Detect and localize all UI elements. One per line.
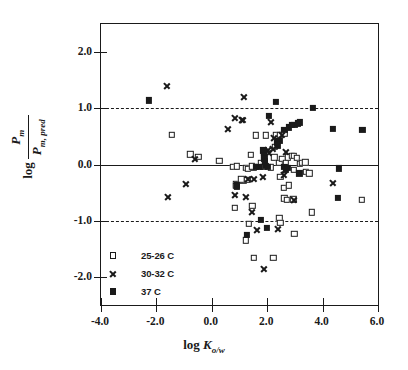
legend: 25-26 C30-32 C37 C xyxy=(107,250,174,297)
data-point xyxy=(164,193,172,201)
data-point xyxy=(282,148,290,156)
y-tick-label--2.0: -2.0 xyxy=(52,270,92,282)
y-tick-label-0.0: 0.0 xyxy=(52,158,92,170)
y-tick-outer--2.0 xyxy=(94,277,101,278)
open-square-icon xyxy=(110,252,116,258)
data-point xyxy=(290,196,298,204)
x-tick-label--2.0: -2.0 xyxy=(146,315,164,327)
y-tick-1.0 xyxy=(101,108,107,109)
y-tick-outer--1.0 xyxy=(94,221,101,222)
x-axis-title: log Ko/w xyxy=(0,337,408,355)
data-point xyxy=(266,113,272,119)
data-point xyxy=(244,175,252,183)
scatter-plot-figure: log Pm Pm, pred log Ko/w 25-26 C30-32 C3… xyxy=(0,0,408,370)
y-tick-2.0 xyxy=(101,52,107,53)
data-point xyxy=(146,97,152,103)
data-point xyxy=(163,82,171,90)
data-point xyxy=(310,105,316,111)
y-tick-outer-2.0 xyxy=(94,52,101,53)
data-point xyxy=(251,255,257,261)
data-point xyxy=(242,193,250,201)
legend-label: 25-26 C xyxy=(141,250,174,261)
data-point xyxy=(234,184,240,190)
data-point xyxy=(272,98,278,104)
x-tick--2.0 xyxy=(156,298,157,305)
y-tick-label--1.0: -1.0 xyxy=(52,214,92,226)
x-tick-label-2.0: 2.0 xyxy=(259,315,273,327)
data-point xyxy=(263,132,269,138)
data-point xyxy=(224,125,232,133)
x-tick--4.0 xyxy=(101,298,102,305)
reference-line-1 xyxy=(101,108,378,109)
data-point xyxy=(286,182,292,188)
reference-line--1 xyxy=(101,221,378,222)
legend-item: 25-26 C xyxy=(107,250,174,261)
data-point xyxy=(247,152,253,158)
data-point xyxy=(231,191,239,199)
legend-item: 30-32 C xyxy=(107,268,174,279)
data-point xyxy=(359,127,365,133)
x-tick-4.0 xyxy=(323,298,324,305)
legend-marker-open-square-icon xyxy=(107,251,119,260)
data-point xyxy=(275,142,281,148)
data-point xyxy=(260,265,268,273)
x-tick-label-6.0: 6.0 xyxy=(370,315,384,327)
data-point xyxy=(297,119,303,125)
data-point xyxy=(291,230,297,236)
y-tick-label-1.0: 1.0 xyxy=(52,101,92,113)
x-tick-6.0 xyxy=(378,298,379,305)
y-tick-outer-0.0 xyxy=(94,165,101,166)
data-point xyxy=(257,217,263,223)
data-point xyxy=(335,195,341,201)
data-point xyxy=(306,170,312,176)
cross-icon xyxy=(109,270,117,278)
y-tick--1.0 xyxy=(101,221,107,222)
data-point xyxy=(239,116,247,124)
y-axis-denominator: Pm, pred xyxy=(29,115,47,159)
data-point xyxy=(231,205,237,211)
data-point xyxy=(259,173,267,181)
data-point xyxy=(168,132,174,138)
x-tick-outer-2.0 xyxy=(267,305,268,312)
data-point xyxy=(253,226,261,234)
data-point xyxy=(264,225,270,231)
data-point xyxy=(248,208,256,216)
x-tick-2.0 xyxy=(267,298,268,305)
data-point xyxy=(336,165,342,171)
x-tick-outer-4.0 xyxy=(323,305,324,312)
legend-label: 37 C xyxy=(141,286,161,297)
x-tick-outer--2.0 xyxy=(156,305,157,312)
data-point xyxy=(244,232,250,238)
y-tick-0.0 xyxy=(101,165,107,166)
data-point xyxy=(302,159,308,165)
y-tick-label-2.0: 2.0 xyxy=(52,45,92,57)
data-point xyxy=(296,170,302,176)
x-tick-label--4.0: -4.0 xyxy=(91,315,109,327)
x-tick-outer-0.0 xyxy=(212,305,213,312)
legend-item: 37 C xyxy=(107,286,174,297)
y-axis-fraction: Pm Pm, pred xyxy=(9,115,47,159)
legend-marker-cross-icon xyxy=(107,269,119,278)
data-point xyxy=(274,225,282,233)
x-tick-label-4.0: 4.0 xyxy=(314,315,328,327)
data-point xyxy=(191,155,199,163)
x-axis-subscript: o/w xyxy=(212,345,225,355)
legend-marker-filled-square-icon xyxy=(107,287,119,296)
x-axis-symbol: K xyxy=(203,337,212,352)
x-tick-outer-6.0 xyxy=(378,305,379,312)
x-tick-outer--4.0 xyxy=(101,305,102,312)
filled-square-icon xyxy=(110,288,116,294)
data-point xyxy=(252,132,258,138)
y-tick-outer-1.0 xyxy=(94,108,101,109)
data-point xyxy=(329,179,337,187)
data-point xyxy=(308,209,314,215)
x-axis-log-prefix: log xyxy=(183,337,200,352)
data-point xyxy=(329,126,335,132)
data-point xyxy=(252,164,258,170)
data-point xyxy=(359,197,365,203)
data-point xyxy=(283,197,289,203)
data-point xyxy=(270,255,276,261)
x-tick-label-0.0: 0.0 xyxy=(204,315,218,327)
legend-label: 30-32 C xyxy=(141,268,174,279)
data-point xyxy=(234,163,240,169)
